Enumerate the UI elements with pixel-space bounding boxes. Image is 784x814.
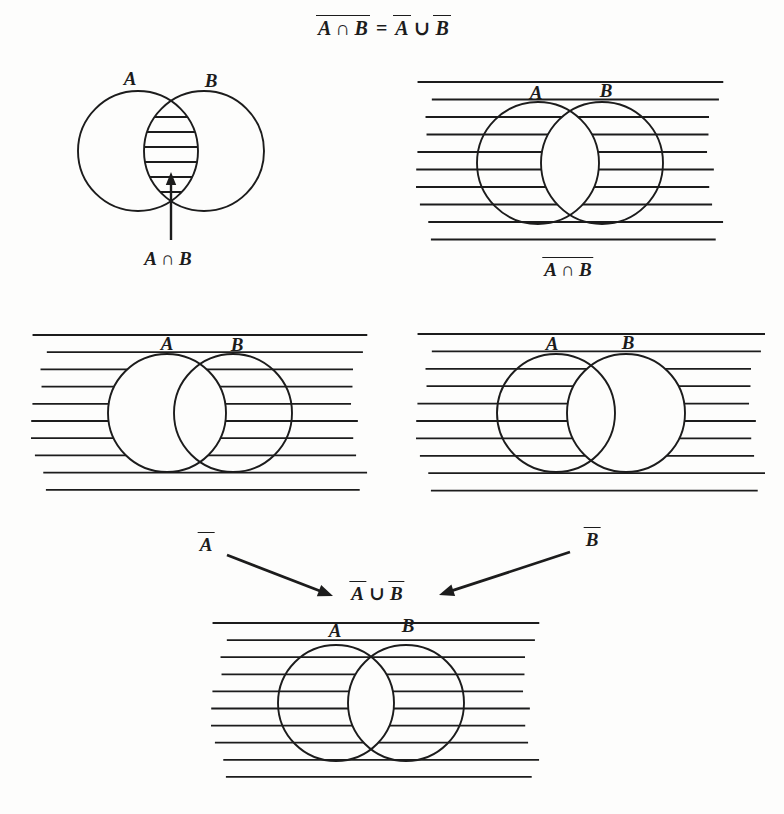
venn-panel-complement-a: A B bbox=[30, 328, 370, 498]
arrowhead-icon bbox=[439, 585, 455, 596]
circle-b bbox=[541, 102, 663, 224]
circle-b bbox=[174, 354, 292, 472]
set-b-label: B bbox=[205, 71, 218, 90]
venn-complement-a-drawing bbox=[30, 328, 370, 498]
arrow-icon bbox=[166, 172, 176, 240]
set-a-label: A bbox=[161, 334, 174, 353]
arrow-icon bbox=[227, 555, 333, 596]
demorgan-figure-page: A ∩ B = A ∪ B A B A ∩ B A B A ∩ B A B A … bbox=[0, 0, 784, 814]
venn-panel-intersection: A B A ∩ B bbox=[60, 60, 310, 275]
venn-panel-complement-intersection: A B A ∩ B bbox=[415, 75, 725, 280]
circle-b bbox=[567, 354, 685, 472]
circle-a bbox=[497, 354, 615, 472]
venn-union-result-drawing bbox=[210, 612, 540, 787]
set-b-label: B bbox=[600, 81, 613, 100]
set-a-label: A bbox=[546, 334, 559, 353]
circle-a bbox=[108, 354, 226, 472]
hatch-lines bbox=[211, 623, 539, 777]
hatch-lines bbox=[416, 334, 765, 491]
venn-complement-intersection-drawing bbox=[415, 75, 725, 247]
arrowhead-icon bbox=[166, 172, 176, 185]
circle-a bbox=[477, 102, 599, 224]
venn-intersection-drawing bbox=[60, 60, 310, 250]
formula-a-bar: A bbox=[393, 15, 410, 38]
formula-equals: = bbox=[370, 18, 393, 38]
b-bar-label: B bbox=[584, 527, 601, 549]
circle-b bbox=[144, 91, 264, 211]
demorgan-formula: A ∩ B = A ∪ B bbox=[316, 15, 451, 38]
set-a-label: A bbox=[530, 83, 543, 102]
formula-lhs-overlined: A ∩ B bbox=[316, 15, 370, 38]
complement-intersection-caption: A ∩ B bbox=[542, 257, 593, 279]
set-b-label: B bbox=[231, 335, 244, 354]
formula-b-bar: B bbox=[433, 15, 450, 38]
venn-complement-b-drawing bbox=[415, 328, 765, 498]
arrowhead-icon bbox=[317, 585, 333, 596]
union-expression-label: A∪B bbox=[349, 581, 404, 603]
set-b-label: B bbox=[402, 616, 415, 635]
arrow-icon bbox=[439, 552, 570, 596]
set-b-label: B bbox=[622, 333, 635, 352]
set-a-label: A bbox=[124, 69, 137, 88]
venn-panel-complement-b: A B bbox=[415, 328, 765, 498]
venn-panel-union-result: A B bbox=[210, 612, 540, 787]
set-a-label: A bbox=[329, 621, 342, 640]
union-symbol: ∪ bbox=[366, 584, 388, 603]
circle-a bbox=[78, 91, 198, 211]
a-bar-label: A bbox=[198, 532, 215, 554]
hatch-lines bbox=[31, 335, 367, 490]
intersection-caption: A ∩ B bbox=[144, 249, 191, 268]
formula-union-symbol: ∪ bbox=[411, 18, 434, 38]
